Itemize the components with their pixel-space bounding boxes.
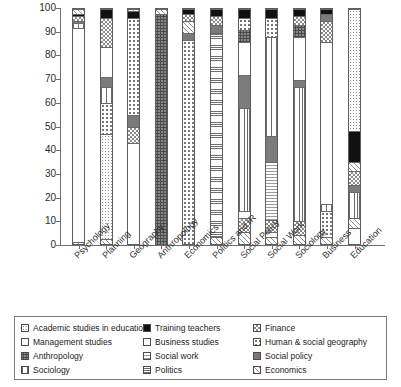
bar-segment[interactable]	[101, 18, 112, 46]
legend-swatch-icon	[143, 338, 151, 346]
bar-segment[interactable]	[349, 171, 360, 185]
legend-swatch-icon	[143, 366, 151, 374]
bar-segment[interactable]	[101, 47, 112, 78]
stacked-bar[interactable]	[100, 8, 113, 245]
legend-label: Business studies	[155, 338, 219, 347]
legend-item[interactable]: Economics	[253, 366, 383, 375]
bar-segment[interactable]	[349, 192, 360, 218]
legend-item[interactable]: Anthropology	[21, 352, 143, 361]
bars-group	[0, 8, 401, 245]
bar-segment[interactable]	[294, 16, 305, 25]
bar-segment[interactable]	[183, 21, 194, 33]
legend-item[interactable]: Management studies	[21, 338, 143, 347]
plot-area: 0102030405060708090100 PsychologyPlannin…	[0, 0, 401, 250]
legend-item[interactable]: Social work	[143, 352, 253, 361]
legend-label: Social work	[155, 352, 198, 361]
bar-segment[interactable]	[349, 162, 360, 171]
bar-segment[interactable]	[156, 14, 167, 244]
legend-swatch-icon	[143, 324, 151, 332]
stacked-bar[interactable]	[182, 8, 195, 245]
legend-item[interactable]: Politics	[143, 366, 253, 375]
bar-segment[interactable]	[239, 30, 250, 42]
legend-item[interactable]: Business studies	[143, 338, 253, 347]
bar-segment[interactable]	[266, 18, 277, 37]
legend-item[interactable]: Academic studies in education	[21, 324, 143, 333]
legend-label: Training teachers	[155, 324, 220, 333]
bar-segment[interactable]	[101, 77, 112, 86]
legend-item[interactable]: Finance	[253, 324, 383, 333]
legend-swatch-icon	[21, 324, 29, 332]
stacked-bar[interactable]	[293, 8, 306, 245]
legend-swatch-icon	[21, 366, 29, 374]
legend-swatch-icon	[253, 338, 261, 346]
bar-segment[interactable]	[239, 75, 250, 108]
bar-segment[interactable]	[321, 14, 332, 21]
legend-item[interactable]: Social policy	[253, 352, 383, 361]
legend-item[interactable]: Human & social geography	[253, 338, 383, 347]
bar-segment[interactable]	[266, 162, 277, 221]
bar-segment[interactable]	[101, 103, 112, 134]
bar-segment[interactable]	[101, 9, 112, 18]
bar-segment[interactable]	[211, 33, 222, 237]
bar-segment[interactable]	[349, 131, 360, 162]
bar-segment[interactable]	[266, 9, 277, 18]
bar-segment[interactable]	[294, 25, 305, 37]
bar-segment[interactable]	[183, 33, 194, 40]
bar-segment[interactable]	[266, 136, 277, 162]
bar-segment[interactable]	[101, 87, 112, 103]
stacked-bar[interactable]	[348, 8, 361, 245]
chart-legend: Academic studies in educationTraining te…	[14, 316, 387, 380]
legend-swatch-icon	[21, 352, 29, 360]
stacked-bar[interactable]	[72, 8, 85, 245]
legend-label: Anthropology	[33, 352, 83, 361]
legend-label: Management studies	[33, 338, 112, 347]
chart-page: 0102030405060708090100 PsychologyPlannin…	[0, 0, 401, 387]
bar-segment[interactable]	[294, 37, 305, 79]
bar-segment[interactable]	[349, 9, 360, 131]
legend-item[interactable]: Training teachers	[143, 324, 253, 333]
bar-segment[interactable]	[128, 11, 139, 18]
legend-item[interactable]: Sociology	[21, 366, 143, 375]
bar-segment[interactable]	[73, 28, 84, 242]
bar-segment[interactable]	[321, 21, 332, 42]
bar-segment[interactable]	[239, 9, 250, 18]
stacked-bar[interactable]	[155, 8, 168, 245]
bar-segment[interactable]	[321, 204, 332, 211]
bar-segment[interactable]	[321, 42, 332, 204]
stacked-bar[interactable]	[238, 8, 251, 245]
legend-label: Politics	[155, 366, 182, 375]
stacked-bar[interactable]	[127, 8, 140, 245]
bar-segment[interactable]	[128, 143, 139, 244]
legend-grid: Academic studies in educationTraining te…	[21, 321, 383, 377]
legend-label: Academic studies in education	[33, 324, 148, 333]
bar-segment[interactable]	[239, 42, 250, 75]
bar-segment[interactable]	[183, 40, 194, 244]
legend-swatch-icon	[253, 324, 261, 332]
bar-segment[interactable]	[294, 87, 305, 221]
bar-segment[interactable]	[239, 18, 250, 30]
legend-label: Social policy	[265, 352, 312, 361]
legend-swatch-icon	[21, 338, 29, 346]
bar-segment[interactable]	[128, 115, 139, 127]
legend-label: Sociology	[33, 366, 70, 375]
bar-segment[interactable]	[294, 80, 305, 87]
bar-segment[interactable]	[349, 218, 360, 227]
bar-segment[interactable]	[349, 185, 360, 192]
bar-segment[interactable]	[211, 25, 222, 32]
legend-swatch-icon	[253, 366, 261, 374]
bar-segment[interactable]	[183, 14, 194, 21]
bar-segment[interactable]	[128, 127, 139, 143]
stacked-bar[interactable]	[320, 8, 333, 245]
y-axis-tick	[56, 245, 60, 246]
legend-label: Finance	[265, 324, 295, 333]
bar-segment[interactable]	[211, 9, 222, 16]
bar-segment[interactable]	[266, 37, 277, 136]
bar-segment[interactable]	[239, 108, 250, 211]
bar-segment[interactable]	[128, 18, 139, 114]
stacked-bar[interactable]	[210, 8, 223, 245]
legend-swatch-icon	[253, 352, 261, 360]
stacked-bar[interactable]	[265, 8, 278, 245]
bar-segment[interactable]	[294, 9, 305, 16]
bar-segment[interactable]	[211, 16, 222, 25]
legend-swatch-icon	[143, 352, 151, 360]
